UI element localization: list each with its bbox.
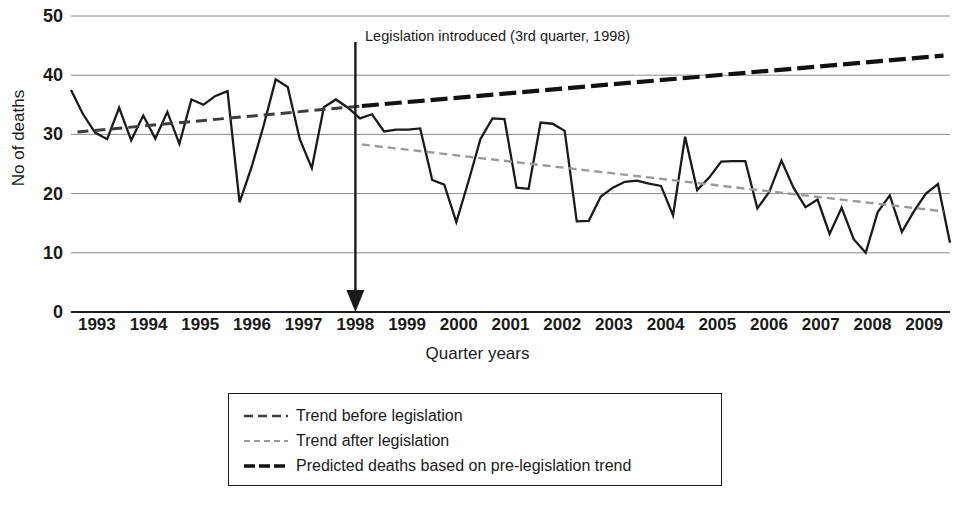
legend-label: Trend before legislation [296,408,463,424]
y-tick-label: 20 [13,181,63,207]
chart-legend: Trend before legislation Trend after leg… [228,393,722,486]
y-tick-label: 30 [13,121,63,147]
y-tick-label: 10 [13,240,63,266]
legend-item-trend-before: Trend before legislation [243,404,463,428]
trend-line [362,56,944,106]
y-tick-label: 50 [13,3,63,29]
y-tick-label: 0 [13,299,63,325]
plot-area: 0102030405019931994199519961997199819992… [0,0,955,340]
legislation-annotation: Legislation introduced (3rd quarter, 199… [365,28,630,44]
dotted-line-swatch [243,434,289,448]
x-axis-title: Quarter years [0,344,955,364]
legend-label: Predicted deaths based on pre-legislatio… [296,458,631,474]
observed-deaths-line [71,79,950,252]
x-tick-label: 2009 [894,315,954,335]
legend-item-trend-after: Trend after legislation [243,429,449,453]
legend-item-predicted: Predicted deaths based on pre-legislatio… [243,454,631,478]
dash-dot-line-swatch [243,459,289,473]
y-tick-label: 40 [13,62,63,88]
legend-label: Trend after legislation [296,433,449,449]
dashed-line-swatch [243,409,289,423]
legislation-arrowhead [346,290,364,312]
chart-figure: No of deaths 010203040501993199419951996… [0,0,955,508]
